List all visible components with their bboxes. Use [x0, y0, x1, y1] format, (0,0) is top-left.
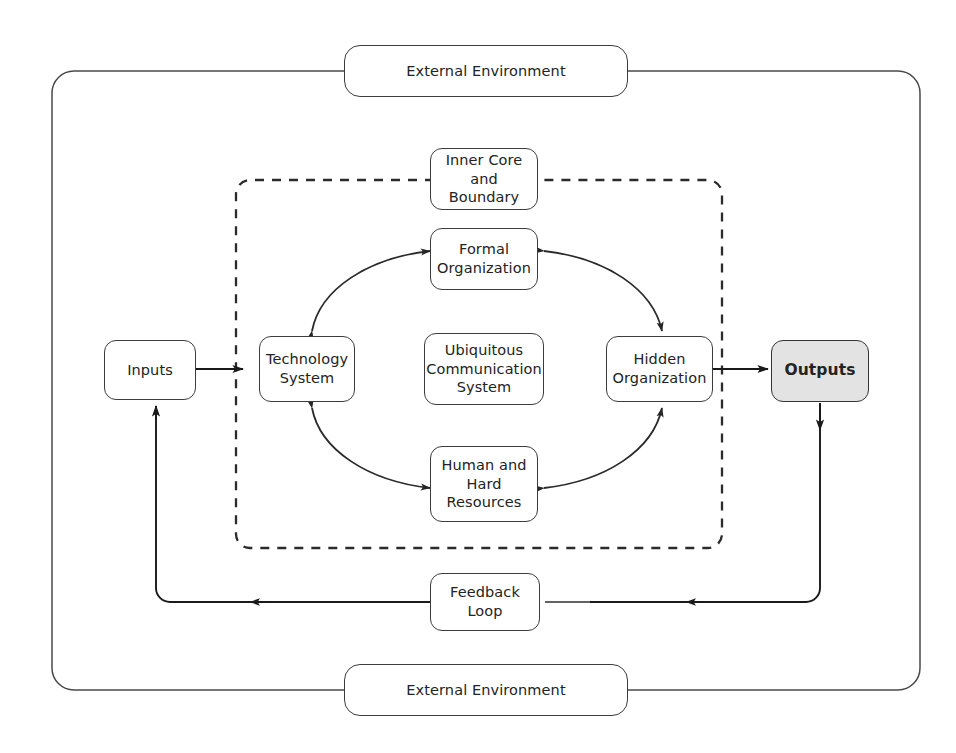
node-label: Feedback Loop — [431, 583, 539, 620]
node-label-line-3: Resources — [441, 493, 528, 512]
diagram-canvas: External Environment External Environmen… — [0, 0, 956, 753]
node-label-line-1: Ubiquitous — [439, 341, 530, 360]
node-label-line-1: Technology — [260, 350, 354, 369]
node-formal-organization: Formal Organization — [430, 228, 538, 290]
connector-technology-human — [312, 408, 430, 488]
node-human-and-hard-resources: Human and Hard Resources — [430, 446, 538, 522]
node-label: External Environment — [400, 681, 571, 700]
node-label: Outputs — [778, 361, 861, 381]
node-label-line-3: System — [451, 378, 518, 397]
node-label-line-2: Hard — [460, 475, 507, 494]
node-external-environment-top: External Environment — [344, 45, 628, 97]
connector-technology-formal — [312, 251, 430, 331]
node-inner-core-and-boundary: Inner Core and Boundary — [430, 148, 538, 210]
node-label-line-1: Human and — [435, 456, 532, 475]
node-label: Inputs — [121, 361, 179, 380]
node-ubiquitous-communication-system: Ubiquitous Communication System — [424, 333, 544, 405]
node-label-line-1: Hidden — [627, 350, 691, 369]
node-label: External Environment — [400, 62, 571, 81]
node-label-line-2: Boundary — [443, 188, 526, 207]
node-feedback-loop: Feedback Loop — [430, 573, 540, 631]
node-outputs: Outputs — [771, 340, 869, 402]
node-hidden-organization: Hidden Organization — [606, 336, 713, 402]
node-external-environment-bottom: External Environment — [344, 664, 628, 716]
node-label-line-2: Communication — [420, 360, 548, 379]
node-label-line-2: Organization — [607, 369, 713, 388]
node-label-line-1: Formal — [453, 240, 515, 259]
node-technology-system: Technology System — [259, 336, 355, 402]
node-label-line-1: Inner Core and — [431, 151, 537, 188]
node-label-line-2: Organization — [431, 259, 537, 278]
node-inputs: Inputs — [104, 340, 196, 400]
connector-formal-hidden — [544, 251, 662, 331]
node-label-line-2: System — [274, 369, 341, 388]
connector-human-hidden — [544, 408, 662, 488]
